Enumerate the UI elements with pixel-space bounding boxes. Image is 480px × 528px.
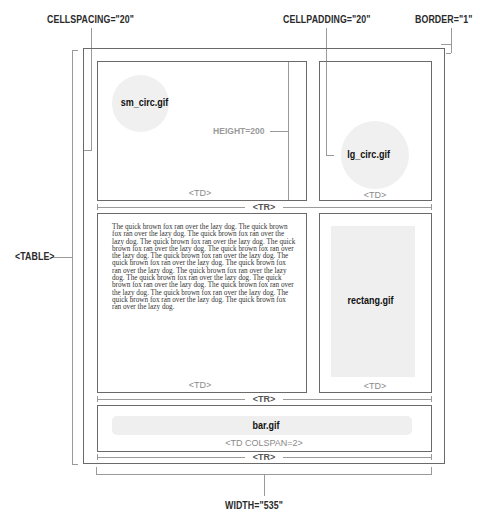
table-bracket-line bbox=[72, 50, 73, 464]
table-pointer-line bbox=[54, 257, 72, 258]
height-label: HEIGHT=200 bbox=[213, 125, 265, 136]
height-measure-line bbox=[288, 62, 289, 200]
td-label-r1c1: <TD> bbox=[180, 188, 220, 198]
rectang-label: rectang.gif bbox=[348, 295, 394, 306]
tr-label-r2: <TR> bbox=[245, 394, 283, 404]
table-label: <TABLE> bbox=[15, 251, 55, 262]
width-bracket-left bbox=[96, 467, 97, 474]
table-bracket-top bbox=[72, 50, 78, 51]
td-label-r1c2: <TD> bbox=[355, 190, 395, 200]
width-bracket-right bbox=[431, 467, 432, 474]
table-bracket-bottom bbox=[72, 464, 78, 465]
bar-label: bar.gif bbox=[253, 420, 280, 431]
tr-label-r3: <TR> bbox=[245, 452, 283, 462]
cell-text-content: The quick brown fox ran over the lazy do… bbox=[112, 224, 295, 312]
sm-circ-label: sm_circ.gif bbox=[121, 97, 169, 108]
tr-label-r1: <TR> bbox=[245, 202, 283, 212]
td-label-r2c1: <TD> bbox=[180, 380, 220, 390]
tr-bracket-r2-right bbox=[431, 396, 432, 402]
border-pointer-tick-bottom bbox=[446, 53, 451, 54]
lg-circ-label: lg_circ.gif bbox=[347, 149, 390, 160]
height-pointer-line bbox=[270, 131, 288, 132]
border-label: BORDER="1" bbox=[415, 14, 472, 25]
text-line: ran over the lazy dog. bbox=[112, 304, 295, 311]
tr-bracket-r3-left bbox=[97, 454, 98, 460]
td-label-colspan: <TD COLSPAN=2> bbox=[214, 438, 314, 448]
td-label-r2c2: <TD> bbox=[355, 381, 395, 391]
tr-bracket-r2-left bbox=[97, 396, 98, 402]
cellpadding-label: CELLPADDING="20" bbox=[283, 14, 371, 25]
tr-bracket-r1-right bbox=[431, 204, 432, 210]
width-label: WIDTH="535" bbox=[225, 500, 283, 511]
cellspacing-label: CELLSPACING="20" bbox=[47, 14, 134, 25]
tr-bracket-r1-left bbox=[97, 204, 98, 210]
tr-bracket-r3-right bbox=[431, 454, 432, 460]
border-pointer-line bbox=[451, 28, 452, 53]
border-pointer-tick-top bbox=[441, 44, 451, 45]
width-pointer-line bbox=[264, 474, 265, 496]
